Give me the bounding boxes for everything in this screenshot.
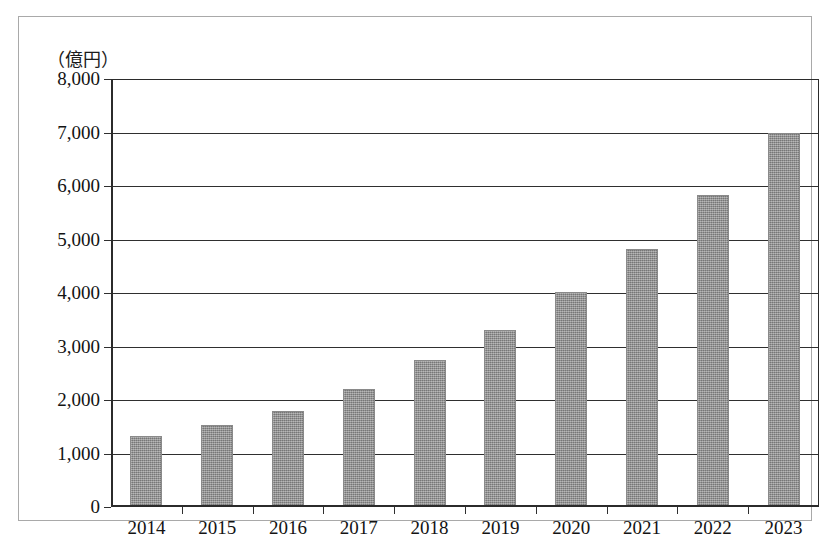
y-axis-tick-label: 1,000 bbox=[57, 443, 100, 465]
gridline bbox=[111, 79, 819, 80]
gridline bbox=[111, 186, 819, 187]
chart-figure-frame: （億円） 01,0002,0003,0004,0005,0006,0007,00… bbox=[18, 16, 812, 521]
x-axis-tick bbox=[677, 507, 678, 514]
bar-2014 bbox=[130, 436, 162, 507]
plot-area: 01,0002,0003,0004,0005,0006,0007,0008,00… bbox=[111, 79, 819, 507]
y-axis-tick-label: 3,000 bbox=[57, 336, 100, 358]
y-axis-tick bbox=[104, 454, 111, 455]
x-axis-tick bbox=[182, 507, 183, 514]
x-axis-tick-label: 2020 bbox=[552, 517, 590, 539]
bar-2022 bbox=[697, 195, 729, 507]
y-axis-tick-label: 5,000 bbox=[57, 229, 100, 251]
y-axis-tick bbox=[104, 79, 111, 80]
y-axis-tick bbox=[104, 133, 111, 134]
y-axis-tick bbox=[104, 240, 111, 241]
bar-2015 bbox=[201, 425, 233, 507]
x-axis-tick-label: 2021 bbox=[623, 517, 661, 539]
bar-2019 bbox=[484, 330, 516, 507]
x-axis-tick-label: 2022 bbox=[694, 517, 732, 539]
x-axis-tick bbox=[465, 507, 466, 514]
x-axis-tick-label: 2014 bbox=[127, 517, 165, 539]
x-axis-tick bbox=[323, 507, 324, 514]
bar-2017 bbox=[343, 389, 375, 507]
y-axis-tick bbox=[104, 400, 111, 401]
x-axis-tick bbox=[748, 507, 749, 514]
y-axis-tick bbox=[104, 186, 111, 187]
x-axis-tick bbox=[253, 507, 254, 514]
y-axis-tick-label: 4,000 bbox=[57, 282, 100, 304]
y-axis-tick bbox=[104, 293, 111, 294]
x-axis-tick-label: 2023 bbox=[765, 517, 803, 539]
y-axis-tick-label: 0 bbox=[91, 496, 101, 518]
x-axis-tick-label: 2019 bbox=[481, 517, 519, 539]
bar-2021 bbox=[626, 249, 658, 507]
x-axis-tick-label: 2018 bbox=[411, 517, 449, 539]
x-axis-tick bbox=[394, 507, 395, 514]
x-axis-tick bbox=[607, 507, 608, 514]
bar-2020 bbox=[555, 292, 587, 507]
x-axis-tick-label: 2016 bbox=[269, 517, 307, 539]
y-axis-tick bbox=[104, 347, 111, 348]
y-axis-tick-label: 7,000 bbox=[57, 122, 100, 144]
x-axis-tick-label: 2017 bbox=[340, 517, 378, 539]
y-axis-tick-label: 2,000 bbox=[57, 389, 100, 411]
x-axis-tick-label: 2015 bbox=[198, 517, 236, 539]
y-axis-tick bbox=[104, 507, 111, 508]
y-axis-tick-label: 8,000 bbox=[57, 68, 100, 90]
bar-2023 bbox=[768, 133, 800, 508]
bar-2018 bbox=[414, 360, 446, 507]
gridline bbox=[111, 133, 819, 134]
scan-top-artifact bbox=[0, 0, 829, 13]
bar-2016 bbox=[272, 411, 304, 507]
x-axis-tick bbox=[536, 507, 537, 514]
y-axis-tick-label: 6,000 bbox=[57, 175, 100, 197]
